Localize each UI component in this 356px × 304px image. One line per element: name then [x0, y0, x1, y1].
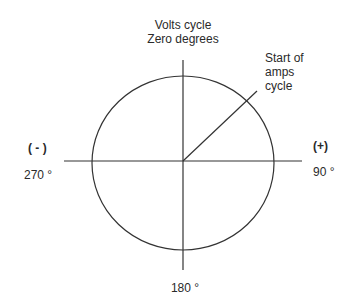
volts-cycle-line1: Volts cycle: [133, 18, 233, 32]
amps-cycle-label: Start of amps cycle: [265, 51, 304, 93]
amps-cycle-line1: Start of: [265, 51, 304, 65]
degrees-180-label: 180 °: [155, 281, 215, 295]
phasor-diagram: Volts cycle Zero degrees Start of amps c…: [0, 0, 356, 304]
degrees-90-label: 90 °: [313, 165, 334, 179]
positive-sign-label: (+): [313, 139, 328, 153]
amps-cycle-line2: amps: [265, 65, 304, 79]
amps-cycle-line3: cycle: [265, 79, 304, 93]
degrees-270-label: 270 °: [24, 168, 52, 182]
volts-cycle-line2: Zero degrees: [133, 32, 233, 46]
negative-sign-label: ( - ): [28, 141, 47, 155]
volts-cycle-label: Volts cycle Zero degrees: [133, 18, 233, 46]
amps-vector: [183, 91, 257, 161]
